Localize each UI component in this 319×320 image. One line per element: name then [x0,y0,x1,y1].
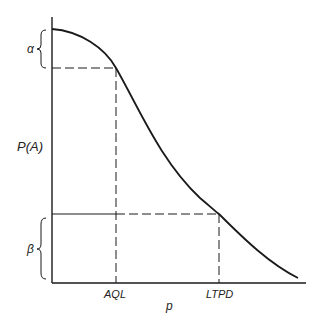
alpha-label: α [27,42,35,56]
beta-brace [37,218,46,279]
beta-label: β [26,242,34,256]
oc-curve [52,29,298,278]
alpha-brace [37,30,46,68]
oc-curve-diagram: α β P(A) AQL LTPD p [0,0,319,320]
y-axis-label: P(A) [17,139,43,154]
ltpd-label: LTPD [206,288,233,300]
x-axis-label: p [165,299,173,313]
aql-label: AQL [103,288,126,300]
